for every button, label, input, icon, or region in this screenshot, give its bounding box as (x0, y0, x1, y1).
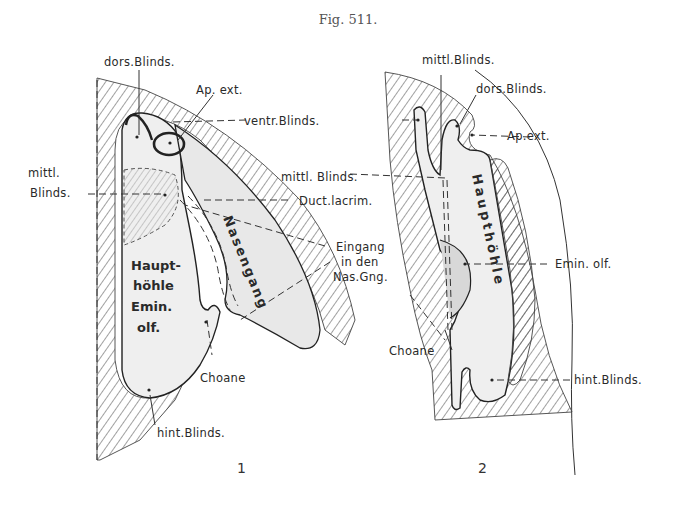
label-dors-blinds-2: dors.Blinds. (476, 82, 547, 96)
label-mittl-1: mittl. (28, 166, 60, 180)
label-choane-1: Choane (200, 371, 246, 385)
label-emin-olf-2: Emin. olf. (555, 257, 611, 271)
label-hint-blinds-1: hint.Blinds. (157, 426, 225, 440)
anatomical-diagram: dors.Blinds. Ap. ext. ventr.Blinds. mitt… (0, 0, 696, 507)
label-in-den: in den (341, 255, 379, 269)
label-nas-gng: Nas.Gng. (333, 270, 388, 284)
label-mittl-blinds-1: mittl. Blinds. (281, 170, 358, 184)
panel-1: dors.Blinds. Ap. ext. ventr.Blinds. mitt… (28, 55, 388, 476)
label-choane-2: Choane (389, 344, 435, 358)
label-hoehle: höhle (133, 278, 174, 293)
label-ap-ext-2: Ap.ext. (507, 129, 550, 143)
panel-2: mittl.Blinds. dors.Blinds. Ap.ext. Haupt… (350, 53, 642, 476)
label-ap-ext-1: Ap. ext. (196, 83, 243, 97)
label-duct-lacrim: Duct.lacrim. (299, 194, 373, 208)
label-haupt: Haupt- (131, 258, 181, 273)
label-eingang: Eingang (336, 240, 385, 254)
label-hint-blinds-2: hint.Blinds. (574, 373, 642, 387)
label-emin: Emin. (131, 299, 172, 314)
label-blinds-1: Blinds. (30, 186, 71, 200)
label-olf: olf. (137, 320, 160, 335)
panel-number-2: 2 (478, 460, 487, 476)
label-dors-blinds-1: dors.Blinds. (104, 55, 175, 69)
label-ventr-blinds-1: ventr.Blinds. (244, 114, 319, 128)
panel-number-1: 1 (237, 460, 246, 476)
label-mittl-blinds-2: mittl.Blinds. (422, 53, 495, 67)
